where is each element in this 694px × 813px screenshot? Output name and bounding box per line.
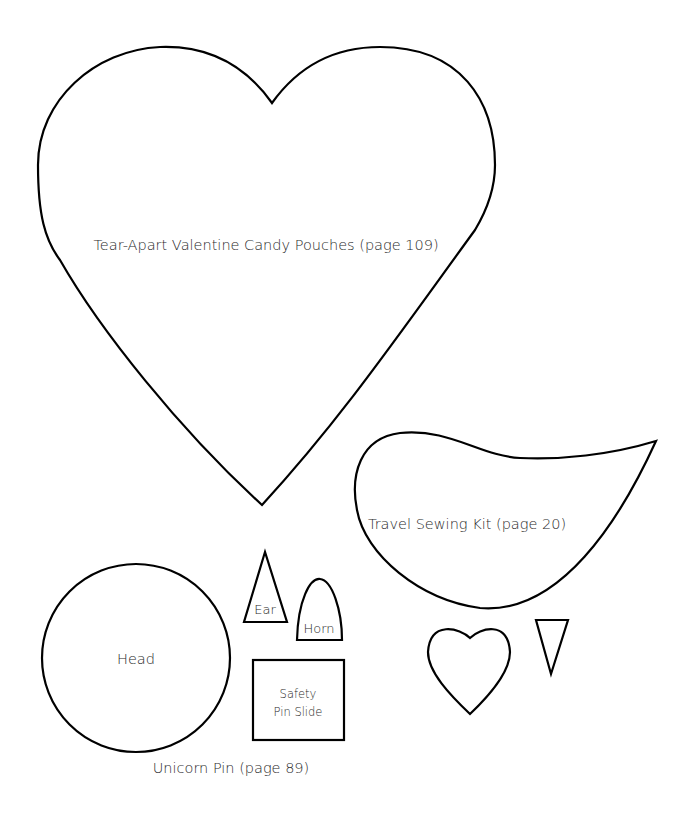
unicorn-pin-title: Unicorn Pin (page 89): [153, 760, 310, 776]
head-label: Head: [117, 651, 155, 667]
horn-label: Horn: [303, 621, 334, 636]
safety-pin-slide-label-line2: Pin Slide: [274, 705, 323, 719]
ear-label: Ear: [254, 602, 276, 617]
small-triangle-shape: [536, 620, 568, 674]
pattern-sheet: [0, 0, 694, 813]
big-heart-label: Tear-Apart Valentine Candy Pouches (page…: [93, 237, 438, 253]
sewing-kit-label: Travel Sewing Kit (page 20): [368, 516, 566, 532]
big-heart-shape: [38, 47, 495, 505]
small-heart-shape: [428, 629, 510, 714]
safety-pin-slide-label-line1: Safety: [280, 687, 317, 701]
